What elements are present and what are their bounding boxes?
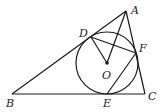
segment-df (91, 37, 136, 53)
segment-ef (107, 53, 136, 94)
label-c: C (148, 90, 157, 103)
label-o: O (102, 69, 111, 82)
triangle-abc (12, 11, 145, 94)
label-e: E (102, 97, 111, 110)
label-f: F (138, 42, 147, 55)
label-d: D (78, 27, 88, 40)
segment-do (91, 37, 107, 63)
label-b: B (5, 97, 14, 110)
geometry-diagram: A B C D E F O (0, 0, 160, 112)
label-a: A (130, 4, 139, 17)
center-point-o (105, 61, 109, 65)
